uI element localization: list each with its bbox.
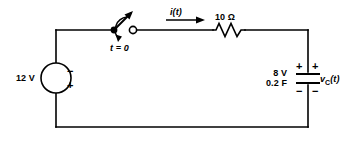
circuit-diagram: 12 V t = 0 i(t) 10 Ω 8 V 0.2 F vC(t) − +… [0,0,360,142]
switch-symbol [111,11,137,42]
capacitor-plus-sign-inner: + [296,61,302,72]
current-label: i(t) [170,7,182,17]
capacitor-voltage-argument: (t) [330,74,339,84]
capacitor-plus-sign-outer: + [312,61,318,72]
resistor-zigzag [213,24,245,37]
capacitor-minus-sign-inner: − [296,86,302,97]
switch-action-arrowhead [116,35,123,43]
current-arrow [166,16,205,23]
switch-time-label: t = 0 [110,43,129,53]
source-value-label: 12 V [16,73,35,83]
switch-open-terminal [129,26,136,33]
capacitor-voltage-label: vC(t) [320,74,340,88]
current-arrow-head [196,16,205,23]
capacitor-symbol [296,74,320,83]
source-minus-sign: − [67,66,73,77]
capacitor-initial-voltage-label: 8 V [253,68,287,78]
source-plus-sign: + [67,80,73,91]
resistor-symbol [213,24,245,37]
capacitor-values-label: 8 V 0.2 F [253,68,287,88]
resistor-label: 10 Ω [215,12,235,22]
capacitor-capacitance-label: 0.2 F [253,78,287,88]
circuit-schematic-svg [0,0,360,142]
capacitor-minus-sign-outer: − [312,86,318,97]
